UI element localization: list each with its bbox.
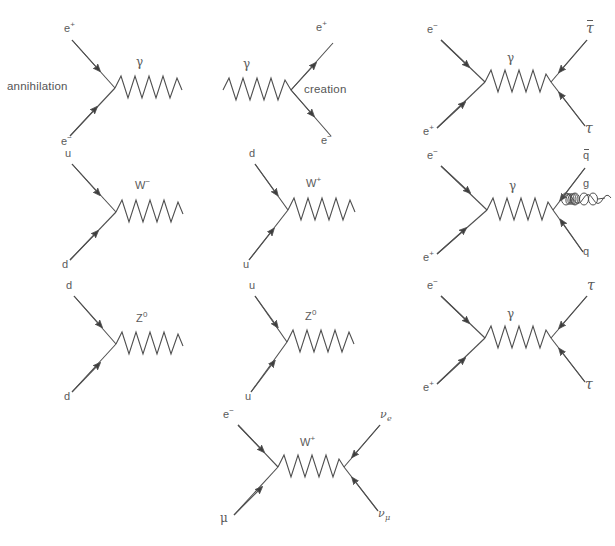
label-boson-photon: γ <box>243 58 250 70</box>
label-boson-photon: γ <box>507 52 514 64</box>
label-boson-w: W+ <box>300 437 315 448</box>
diagram-ud-wminus: u d W− <box>20 142 220 282</box>
diagram-ee-to-qqbar-gluon: e− e+ γ q q g <box>415 142 615 282</box>
diagram-dd-z0: d d Z0 <box>20 272 220 412</box>
label-out-top: e+ <box>316 22 327 33</box>
label-in-top: d <box>249 148 255 159</box>
diagram-uu-z0: u u Z0 <box>213 272 413 412</box>
label-in-top: e+ <box>64 23 75 34</box>
uu-z0-graphic <box>213 272 413 412</box>
label-in-top: e− <box>223 409 234 420</box>
diagram-emu-to-neutrinos: e− μ W+ νe νμ <box>190 405 420 545</box>
label-boson-photon: γ <box>136 56 143 68</box>
label-in-top: e− <box>427 280 438 291</box>
ee-tau-antitau-graphic <box>415 18 600 158</box>
diagram-creation: e+ e− γ creation <box>213 18 413 158</box>
label-boson-photon: γ <box>507 308 514 320</box>
label-caption-creation: creation <box>304 84 347 96</box>
label-in-bottom: u <box>243 259 249 270</box>
label-out-bottom-neutrino-mu: νμ <box>378 508 390 519</box>
label-in-top: e− <box>427 24 438 35</box>
diagram-ee-to-tautau: e− e+ γ τ τ <box>415 272 615 412</box>
label-boson-photon: γ <box>509 180 516 192</box>
diagram-du-wplus: d u W+ <box>213 142 413 282</box>
label-in-bottom: e+ <box>423 126 434 137</box>
ud-wminus-graphic <box>20 142 220 282</box>
label-in-bottom: u <box>245 391 251 402</box>
label-in-bottom: d <box>62 259 68 270</box>
label-in-top: d <box>66 280 72 291</box>
label-gluon: g <box>583 178 589 189</box>
ee-qqbar-gluon-graphic <box>415 142 600 282</box>
label-out-bottom-quark: q <box>583 246 589 257</box>
label-in-top: u <box>249 280 255 291</box>
label-boson-z: Z0 <box>305 311 317 322</box>
label-boson-w: W+ <box>306 178 321 189</box>
label-out-top-antiquark: q <box>583 150 589 161</box>
label-in-bottom: e+ <box>423 382 434 393</box>
label-out-bottom: τ <box>585 377 593 391</box>
label-in-top: u <box>65 148 71 159</box>
label-caption-annihilation: annihilation <box>7 81 68 93</box>
label-out-top: τ <box>587 278 595 292</box>
label-in-bottom: e+ <box>423 252 434 263</box>
label-out-top: τ <box>586 21 594 35</box>
label-boson-w: W− <box>135 180 150 191</box>
label-in-bottom: μ <box>220 512 228 524</box>
label-out-bottom: τ <box>585 121 593 135</box>
diagram-ee-to-tautaubar: e− e+ γ τ τ <box>415 18 615 158</box>
dd-z0-graphic <box>20 272 220 412</box>
label-out-top-neutrino-e: νe <box>380 409 392 420</box>
label-in-top: e− <box>427 150 438 161</box>
diagram-annihilation: e+ e− γ annihilation <box>20 18 220 158</box>
ee-tautau-graphic <box>415 272 600 412</box>
label-in-bottom: d <box>64 391 70 402</box>
label-boson-z: Z0 <box>136 313 148 324</box>
